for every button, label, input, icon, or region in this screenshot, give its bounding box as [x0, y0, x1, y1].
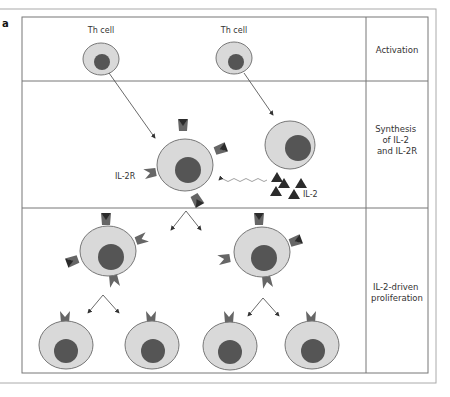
- arrow-division-2a: [88, 295, 103, 313]
- arrow-division-2b: [103, 295, 119, 313]
- il2-molecules: [270, 172, 307, 199]
- granddaughter-cell-2: [125, 311, 179, 369]
- granddaughter-cell-4: [285, 311, 339, 369]
- daughter-cell-right: [217, 213, 303, 289]
- il2-label: IL-2: [303, 190, 318, 199]
- arrow-division-left: [171, 211, 186, 230]
- il2-diagram: a Activation Synthesis of IL-2 and IL-2R…: [0, 0, 450, 397]
- daughter-cell-left: [65, 213, 149, 288]
- th-cell-left: [83, 43, 119, 75]
- panel-label: a: [2, 18, 9, 29]
- arrow-activation-left: [109, 73, 155, 138]
- stage-activation: Activation: [376, 45, 419, 55]
- il2r-expressing-cell: [143, 119, 228, 208]
- stage-proliferation: IL-2-driven proliferation: [371, 282, 423, 303]
- th-cell-label-left: Th cell: [87, 26, 114, 35]
- stage-synthesis: Synthesis of IL-2 and IL-2R: [375, 124, 419, 156]
- il2-signal-squiggle: [219, 179, 267, 182]
- arrow-division-2c: [248, 298, 263, 316]
- arrow-division-2d: [263, 298, 279, 316]
- granddaughter-cell-3: [203, 311, 257, 370]
- th-cell-right: [216, 42, 252, 74]
- il2r-label: IL-2R: [115, 172, 136, 181]
- il2-secreting-cell: [265, 121, 315, 169]
- granddaughter-cell-1: [39, 311, 93, 369]
- arrow-activation-right: [244, 73, 273, 115]
- th-cell-label-right: Th cell: [220, 26, 247, 35]
- arrow-division-right: [186, 211, 201, 230]
